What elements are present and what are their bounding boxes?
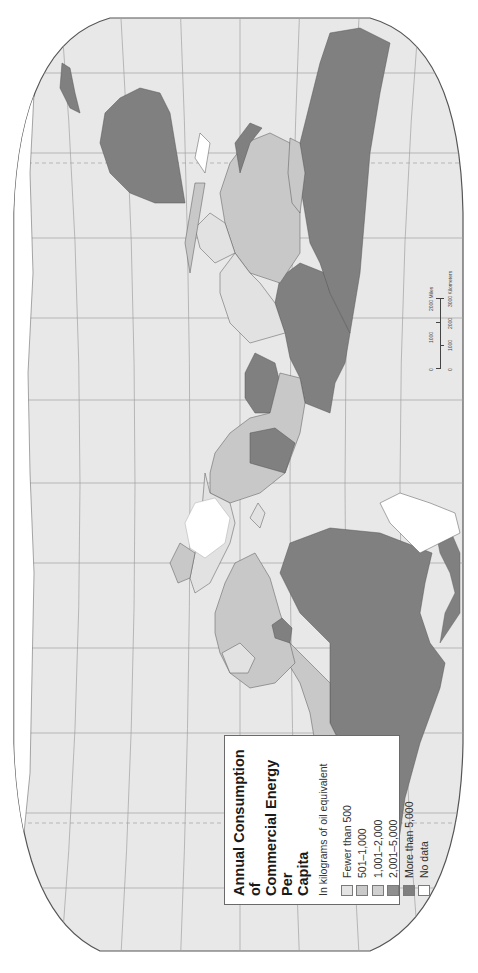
legend-title-line-1: Annual Consumption of	[231, 744, 263, 896]
scale-tick	[436, 368, 440, 369]
scale-tick	[436, 298, 444, 299]
scale-tick	[440, 345, 444, 346]
legend-item-1001-2000: 1,001–2,000	[370, 744, 386, 896]
scale-miles-0: 0	[428, 368, 434, 371]
scale-bar: 0 1000 2000 Miles 0 1000 2000 3000 Kilom…	[420, 253, 470, 373]
swatch-no-data	[418, 885, 430, 896]
scale-km-0: 0	[447, 368, 453, 371]
scale-miles-2000: 2000 Miles	[428, 287, 434, 311]
legend-label: No data	[418, 841, 430, 878]
legend: Annual Consumption of Commercial Energy …	[224, 735, 400, 905]
legend-label: Fewer than 500	[341, 805, 353, 878]
legend-title: Annual Consumption of Commercial Energy …	[231, 744, 311, 896]
legend-label: More than 5,000	[403, 802, 415, 878]
swatch-501-1000	[356, 885, 368, 896]
legend-item-2001-5000: 2,001–5,000	[386, 744, 402, 896]
swatch-more-than-5000	[403, 885, 415, 896]
legend-title-line-2: Commercial Energy Per	[263, 744, 295, 896]
scale-tick	[436, 322, 440, 323]
swatch-1001-2000	[372, 885, 384, 896]
legend-item-fewer-than-500: Fewer than 500	[339, 744, 355, 896]
scale-km-2000: 2000	[447, 318, 453, 329]
legend-label: 1,001–2,000	[372, 820, 384, 878]
swatch-fewer-than-500	[341, 885, 353, 896]
legend-item-501-1000: 501–1,000	[355, 744, 371, 896]
legend-title-line-3: Capita	[295, 744, 311, 896]
legend-item-more-than-5000: More than 5,000	[401, 744, 417, 896]
scale-km-1000: 1000	[447, 340, 453, 351]
rotated-map-page: Annual Consumption of Commercial Energy …	[0, 0, 478, 973]
legend-label: 2,001–5,000	[387, 820, 399, 878]
legend-units: In kilograms of oil equivalent	[317, 744, 329, 896]
scale-bar-line	[440, 299, 441, 369]
scale-km-3000: 3000 Kilometers	[447, 271, 453, 307]
scale-miles-1000: 1000	[428, 332, 434, 343]
legend-item-no-data: No data	[417, 744, 433, 896]
legend-label: 501–1,000	[356, 828, 368, 878]
swatch-2001-5000	[387, 885, 399, 896]
